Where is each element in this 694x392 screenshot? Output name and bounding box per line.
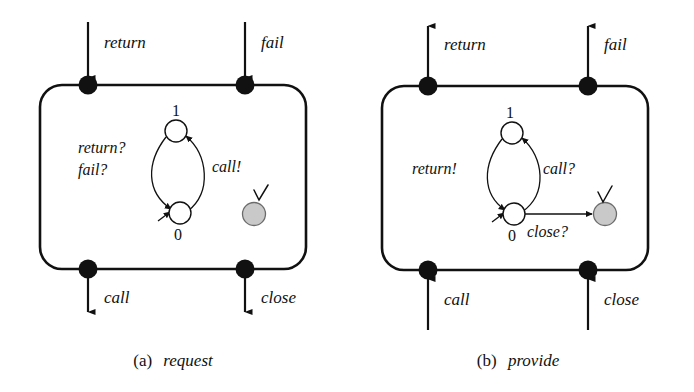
check-icon-a — [254, 185, 268, 200]
transition-label-b-call: call? — [543, 160, 575, 177]
state-label-b-0: 0 — [508, 227, 516, 244]
state-circle-a-1[interactable] — [165, 120, 187, 142]
caption-a: (a) request — [133, 351, 214, 370]
panel-a: return fail call close — [40, 22, 306, 370]
state-circle-b-final[interactable] — [594, 203, 617, 226]
state-label-a-1: 1 — [172, 102, 180, 119]
port-dot-close-a — [236, 260, 255, 279]
port-dot-close-b — [579, 261, 598, 280]
port-label-return-b: return — [444, 35, 486, 54]
port-label-return-a: return — [104, 33, 146, 52]
port-dot-return-a — [79, 76, 98, 95]
port-dot-fail-a — [236, 76, 255, 95]
check-icon-b — [598, 186, 612, 202]
port-dot-call-b — [419, 261, 438, 280]
port-dot-fail-b — [579, 77, 598, 96]
transition-b-1-to-0 — [487, 139, 505, 210]
panel-b: return fail call close — [382, 26, 648, 370]
interface-automata-diagram: return fail call close — [0, 0, 694, 392]
port-label-fail-b: fail — [604, 35, 627, 54]
initial-arrow-b — [492, 213, 504, 222]
state-circle-a-final[interactable] — [243, 203, 266, 226]
caption-b: (b) provide — [477, 351, 560, 370]
state-circle-b-1[interactable] — [501, 122, 523, 144]
transition-label-a-return: return? — [78, 139, 125, 156]
transition-label-a-call: call! — [212, 158, 241, 175]
state-circle-b-0[interactable] — [503, 203, 525, 225]
port-label-close-a: close — [261, 288, 296, 307]
port-dot-return-b — [419, 77, 438, 96]
port-a-bottom-call[interactable]: call — [79, 260, 130, 313]
caption-a-name: request — [163, 351, 214, 370]
caption-b-name: provide — [507, 351, 560, 370]
port-label-fail-a: fail — [261, 33, 284, 52]
transition-label-b-close: close? — [527, 223, 568, 240]
transition-a-0-to-1 — [186, 136, 204, 211]
caption-a-tag: (a) — [133, 351, 152, 370]
automaton-a: 1 0 return? fail? call! — [78, 102, 268, 243]
transition-label-b-return: return! — [412, 160, 457, 177]
port-a-bottom-close[interactable]: close — [236, 260, 297, 313]
port-label-close-b: close — [604, 290, 639, 309]
port-a-top-return[interactable]: return — [79, 22, 146, 95]
state-label-a-0: 0 — [174, 226, 182, 243]
transition-label-a-fail: fail? — [78, 161, 107, 179]
state-label-b-1: 1 — [506, 104, 514, 121]
transition-a-1-to-0 — [152, 137, 171, 209]
transition-b-0-to-1 — [522, 138, 540, 212]
port-dot-call-a — [79, 260, 98, 279]
port-label-call-b: call — [444, 290, 470, 309]
figure-root: return fail call close — [0, 0, 694, 392]
port-label-call-a: call — [104, 288, 130, 307]
port-a-top-fail[interactable]: fail — [236, 22, 284, 95]
state-circle-a-0[interactable] — [169, 202, 191, 224]
initial-arrow-a — [158, 212, 170, 221]
caption-b-tag: (b) — [477, 351, 497, 370]
automaton-b: 1 0 return! call? close? — [412, 104, 617, 244]
